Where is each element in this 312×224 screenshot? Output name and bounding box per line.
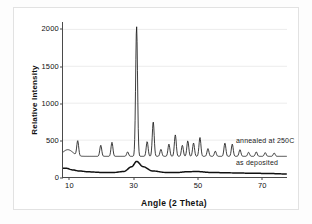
x-axis-label: Angle (2 Theta): [141, 198, 207, 208]
xrd-figure: Relative Intensity 050010001500200010305…: [0, 0, 312, 224]
y-tick-label: 1500: [42, 63, 60, 71]
x-tick-label: 10: [65, 182, 74, 190]
y-tick-mark: [60, 103, 63, 104]
y-tick-label: 0: [55, 174, 59, 182]
y-tick-label: 1000: [42, 100, 60, 108]
y-tick-label: 500: [46, 137, 59, 145]
series-label-annealed: annealed at 250C: [236, 137, 294, 144]
y-axis-label: Relative Intensity: [30, 65, 39, 134]
y-tick-mark: [60, 178, 63, 179]
y-tick-mark: [60, 29, 63, 30]
x-tick-mark: [69, 177, 70, 180]
x-tick-label: 70: [258, 182, 267, 190]
x-tick-mark: [198, 177, 199, 180]
series-label-as-deposited: as deposited: [236, 159, 278, 166]
y-tick-mark: [60, 140, 63, 141]
data-curves: [63, 22, 287, 177]
x-tick-label: 30: [129, 182, 138, 190]
y-tick-mark: [60, 66, 63, 67]
x-tick-mark: [262, 177, 263, 180]
plot-area: 050010001500200010305070: [62, 22, 287, 178]
x-tick-mark: [133, 177, 134, 180]
x-tick-label: 50: [194, 182, 203, 190]
figure-frame: Relative Intensity 050010001500200010305…: [13, 7, 299, 210]
y-tick-label: 2000: [42, 26, 60, 34]
